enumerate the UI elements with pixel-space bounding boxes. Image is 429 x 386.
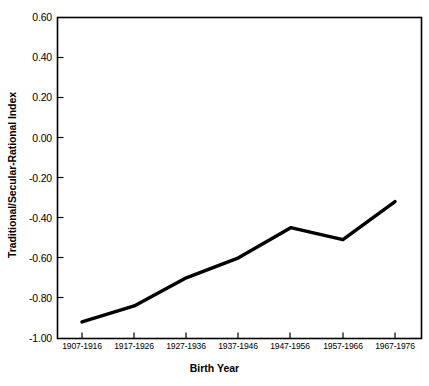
plot-area xyxy=(0,0,429,386)
y-tick-marks xyxy=(58,58,64,298)
x-tick-label: 1917-1926 xyxy=(114,341,154,351)
plot-frame xyxy=(58,18,422,339)
x-tick-label: 1927-1936 xyxy=(166,341,206,351)
x-axis-title: Birth Year xyxy=(0,362,429,374)
x-tick-label: 1907-1916 xyxy=(62,341,102,351)
x-tick-marks xyxy=(82,333,395,339)
x-tick-label: 1957-1966 xyxy=(323,341,363,351)
x-tick-label: 1937-1946 xyxy=(218,341,258,351)
data-series-line xyxy=(82,202,395,322)
x-tick-label: 1967-1976 xyxy=(375,341,415,351)
x-tick-label: 1947-1956 xyxy=(270,341,310,351)
line-chart: Traditional/Secular-Rational Index 0.60 … xyxy=(0,0,429,386)
